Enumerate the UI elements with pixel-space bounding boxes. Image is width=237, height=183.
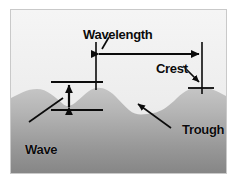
diagram-plate: Wavelength Crest Trough Wave height xyxy=(10,9,227,174)
wave-height-label: Wave height xyxy=(25,115,62,174)
wave-diagram-figure: Wavelength Crest Trough Wave height xyxy=(0,0,237,183)
wavelength-label: Wavelength xyxy=(83,28,152,42)
trough-label: Trough xyxy=(182,123,224,137)
wave-height-label-line1: Wave xyxy=(25,143,62,157)
crest-label: Crest xyxy=(156,62,188,76)
